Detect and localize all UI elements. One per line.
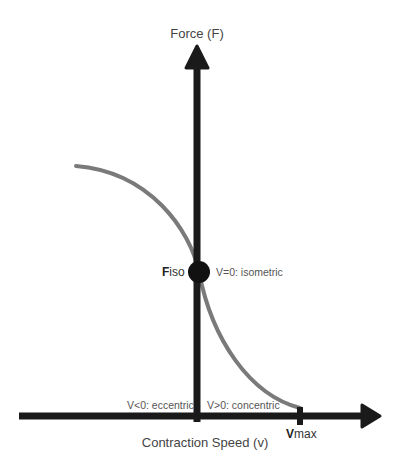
isometric-annotation: V=0: isometric [216,266,283,278]
vmax-label-prefix: V [286,427,294,441]
fiso-point [188,261,210,283]
eccentric-label: V<0: eccentric [127,399,194,411]
force-velocity-curve [76,166,300,408]
concentric-label: V>0: concentric [207,399,280,411]
x-axis-arrow-icon [362,405,380,427]
fiso-label-suffix: iso [169,265,185,279]
vmax-label-suffix: max [294,427,317,441]
x-axis-label: Contraction Speed (v) [142,435,268,450]
y-axis-arrow-icon [186,46,208,68]
force-velocity-diagram: Force (F) Contraction Speed (v) Fiso V=0… [0,0,402,470]
y-axis-label: Force (F) [170,26,223,41]
fiso-label: Fiso [162,265,185,279]
fiso-label-prefix: F [162,265,169,279]
vmax-label: Vmax [286,427,317,441]
